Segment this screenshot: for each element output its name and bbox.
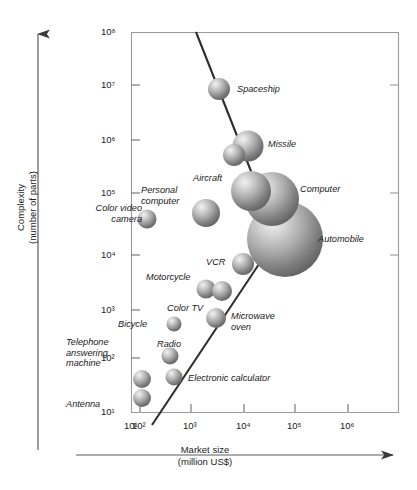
point-label-automobile: Automobile <box>318 234 364 245</box>
point-label-bicycle: Bicycle <box>118 319 147 330</box>
x-tick-label-6: 10⁶ <box>340 420 354 431</box>
y-axis-title-line2: (number of parts) <box>26 171 37 244</box>
point-label-color-video-camera: Color video camera <box>92 203 142 224</box>
point-label-electronic-calculator: Electronic calculator <box>188 373 270 384</box>
y-tick-label-4: 10⁴ <box>101 249 116 260</box>
x-axis-ticks <box>140 404 348 412</box>
bubble-aircraft <box>231 171 271 211</box>
bubble-vcr <box>232 253 254 275</box>
chart-canvas <box>0 0 417 490</box>
chart-figure: Complexity (number of parts) Market size… <box>0 0 417 490</box>
point-label-spaceship: Spaceship <box>237 84 280 95</box>
point-label-personal-computer: Personal computer <box>141 185 199 206</box>
x-axis-title: Market size (million US$) <box>150 444 260 467</box>
y-tick-label-8: 10⁸ <box>101 26 116 37</box>
point-label-aircraft: Aircraft <box>193 173 222 184</box>
y-tick-label-3: 10³ <box>101 304 115 315</box>
y-tick-label-6: 10⁶ <box>101 134 115 145</box>
bubble-bicycle <box>167 317 182 332</box>
x-axis-title-line1: Market size <box>181 444 230 455</box>
y-axis-title: Complexity (number of parts) <box>15 138 38 278</box>
x-tick-label-5: 10⁵ <box>287 420 302 431</box>
bubble-missile-b <box>223 144 245 166</box>
point-label-antenna: Antenna <box>66 399 100 410</box>
point-label-color-tv: Color TV <box>167 303 203 314</box>
point-label-missile: Missile <box>268 139 296 150</box>
y-tick-label-5: 10⁵ <box>101 187 116 198</box>
x-tick-label-4: 10⁴ <box>236 420 251 431</box>
bubble-telephone-answering-machine <box>133 370 151 388</box>
y-tick-label-7: 10⁷ <box>101 79 115 90</box>
x-tick-label-3: 10³ <box>183 420 197 431</box>
x-axis-title-line2: (million US$) <box>178 456 232 467</box>
y-axis-title-line1: Complexity <box>15 184 26 231</box>
y-tick-label-1: 10¹ <box>101 406 115 417</box>
point-label-microwave-oven: Microwave oven <box>231 311 289 332</box>
y-axis-ticks-right <box>390 85 398 255</box>
point-label-radio: Radio <box>157 339 181 350</box>
point-label-computer: Computer <box>300 184 340 195</box>
bubble-radio <box>162 348 179 365</box>
point-label-vcr: VCR <box>206 257 225 268</box>
bubble-series <box>133 78 323 407</box>
bubble-electronic-calculator <box>166 369 183 386</box>
bubble-antenna <box>133 389 151 407</box>
x-tick-label-2: 10² <box>132 420 146 431</box>
bubble-spaceship <box>208 78 230 100</box>
bubble-color-tv <box>212 281 232 301</box>
point-label-motorcycle: Motorcycle <box>146 272 190 283</box>
bubble-microwave-oven <box>206 308 226 328</box>
point-label-telephone-answering-machine: Telephone answering machine <box>66 337 132 369</box>
